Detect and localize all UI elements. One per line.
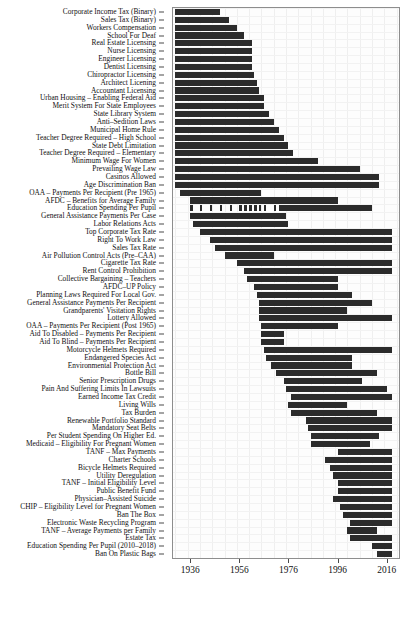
timeline-bar [175, 150, 293, 156]
timeline-bar [193, 221, 289, 227]
timeline-bar [257, 292, 353, 298]
timeline-bar [175, 142, 288, 148]
timeline-bar [175, 174, 379, 180]
y-axis-tick-mark [159, 90, 164, 91]
y-axis-tick-mark [159, 145, 164, 146]
grid-line-horizontal [173, 330, 399, 331]
x-axis-tick-label: 1996 [328, 565, 347, 575]
y-axis-tick-mark [159, 365, 164, 366]
timeline-bar [343, 512, 392, 518]
y-axis-tick-mark [159, 271, 164, 272]
timeline-bar [225, 252, 274, 258]
y-axis-tick-mark [159, 491, 164, 492]
y-axis-tick-mark [159, 349, 164, 350]
timeline-bar [210, 205, 212, 211]
y-axis-tick-mark [159, 459, 164, 460]
y-axis-tick-mark [159, 153, 164, 154]
y-axis-tick-mark [159, 318, 164, 319]
timeline-bar [377, 551, 392, 557]
x-axis-tick-mark [239, 559, 240, 563]
timeline-bar [308, 425, 392, 431]
y-axis-tick-mark [159, 310, 164, 311]
timeline-bar [325, 457, 391, 463]
timeline-bar [306, 417, 392, 423]
y-axis-tick-mark [159, 59, 164, 60]
timeline-bar [200, 205, 202, 211]
y-axis-tick-mark [159, 334, 164, 335]
y-axis-tick-mark [159, 522, 164, 523]
y-axis-tick-mark [159, 255, 164, 256]
timeline-bar [180, 190, 261, 196]
timeline-bar [338, 488, 392, 494]
timeline-bar [333, 496, 392, 502]
y-axis-tick-mark [159, 184, 164, 185]
y-axis-tick-mark [159, 11, 164, 12]
y-axis-tick-mark [159, 121, 164, 122]
y-axis-tick-mark [159, 51, 164, 52]
timeline-bar [350, 535, 392, 541]
grid-line-horizontal [173, 338, 399, 339]
x-axis-tick-mark [387, 559, 388, 563]
y-axis-tick-mark [159, 396, 164, 397]
y-axis-tick-mark [159, 82, 164, 83]
grid-line-horizontal [173, 542, 399, 543]
x-axis-tick-mark [288, 559, 289, 563]
timeline-bar [264, 347, 392, 353]
timeline-bar [247, 276, 338, 282]
timeline-bar [220, 205, 222, 211]
timeline-bar [175, 111, 268, 117]
timeline-bar [175, 87, 259, 93]
y-axis-tick-mark [159, 27, 164, 28]
timeline-bar [333, 472, 392, 478]
y-axis-tick-mark [159, 224, 164, 225]
y-axis-tick-mark [159, 279, 164, 280]
grid-line-horizontal [173, 252, 399, 253]
y-axis-tick-mark [159, 467, 164, 468]
timeline-bar [230, 205, 232, 211]
timeline-bar [261, 323, 337, 329]
timeline-bar [271, 362, 352, 368]
timeline-bar [259, 315, 392, 321]
timeline-bar [340, 504, 392, 510]
y-axis-tick-mark [159, 357, 164, 358]
timeline-bar [279, 205, 372, 211]
y-axis-tick-mark [159, 98, 164, 99]
y-axis-tick-mark [159, 114, 164, 115]
y-axis-tick-mark [159, 554, 164, 555]
y-axis-labels: Corporate Income Tax (Binary)Sales Tax (… [0, 0, 166, 618]
grid-line-horizontal [173, 550, 399, 551]
timeline-bar [288, 402, 347, 408]
y-axis-tick-mark [159, 302, 164, 303]
y-axis-tick-mark [159, 35, 164, 36]
timeline-bar [259, 307, 347, 313]
timeline-bar [215, 245, 392, 251]
y-axis-tick-mark [159, 444, 164, 445]
y-axis-tick-mark [159, 451, 164, 452]
y-axis-tick-mark [159, 239, 164, 240]
timeline-bar [175, 48, 251, 54]
y-axis-tick-mark [159, 106, 164, 107]
x-axis-tick-label: 1976 [279, 565, 298, 575]
y-axis-tick-mark [159, 19, 164, 20]
y-axis-tick-mark [159, 286, 164, 287]
timeline-bar [311, 433, 380, 439]
y-axis-tick-mark [159, 389, 164, 390]
timeline-bar [347, 527, 376, 533]
timeline-bar [249, 205, 251, 211]
y-axis-tick-mark [159, 192, 164, 193]
timeline-bar [276, 370, 377, 376]
timeline-bar [175, 95, 263, 101]
timeline-bar [239, 205, 241, 211]
y-axis-tick-mark [159, 546, 164, 547]
timeline-bar [175, 17, 229, 23]
timeline-bar [259, 205, 261, 211]
x-axis-tick-mark [190, 559, 191, 563]
y-axis-tick-mark [159, 404, 164, 405]
y-axis-tick-mark [159, 216, 164, 217]
timeline-bar [291, 394, 392, 400]
y-axis-tick-mark [159, 499, 164, 500]
y-axis-tick-mark [159, 475, 164, 476]
timeline-bar [175, 56, 251, 62]
timeline-bar [190, 205, 192, 211]
timeline-bar [274, 205, 276, 211]
